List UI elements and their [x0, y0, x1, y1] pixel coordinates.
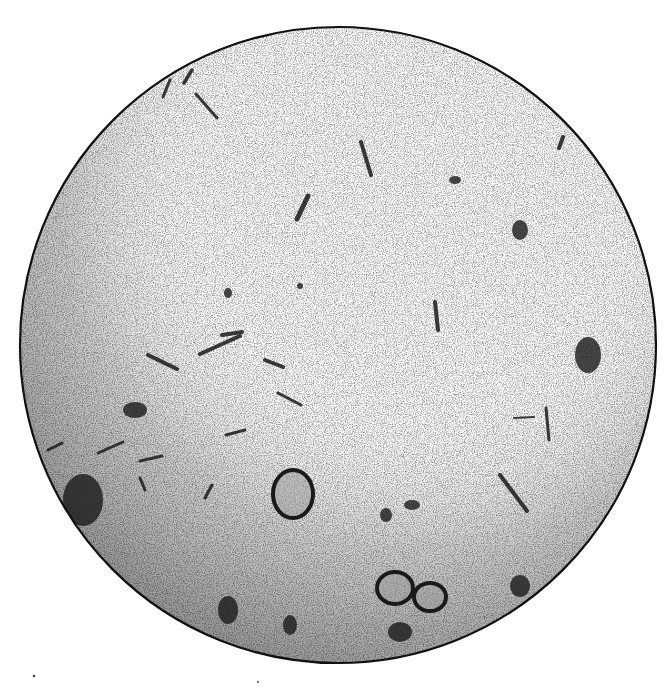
grain-texture: [0, 0, 668, 688]
cell-blob: [218, 596, 238, 624]
cell-blob: [63, 474, 103, 526]
cell-blob: [273, 470, 313, 518]
cell-blob: [510, 575, 530, 597]
rod: [514, 417, 534, 418]
cell-blob: [404, 500, 420, 510]
cell-blob: [297, 283, 303, 289]
cell-blob: [380, 508, 392, 522]
microscope-field: [0, 0, 668, 688]
stray-dot: [257, 681, 259, 683]
specimen-area: [0, 0, 668, 688]
cell-blob: [414, 583, 446, 611]
cell-blob: [449, 176, 461, 184]
cell-blob: [575, 337, 601, 373]
cell-blob: [377, 572, 413, 604]
cell-blob: [388, 622, 412, 642]
cell-blob: [512, 220, 528, 240]
cell-blob: [123, 402, 147, 418]
stray-dot: [33, 675, 35, 677]
cell-blob: [283, 615, 297, 635]
cell-blob: [224, 288, 232, 298]
